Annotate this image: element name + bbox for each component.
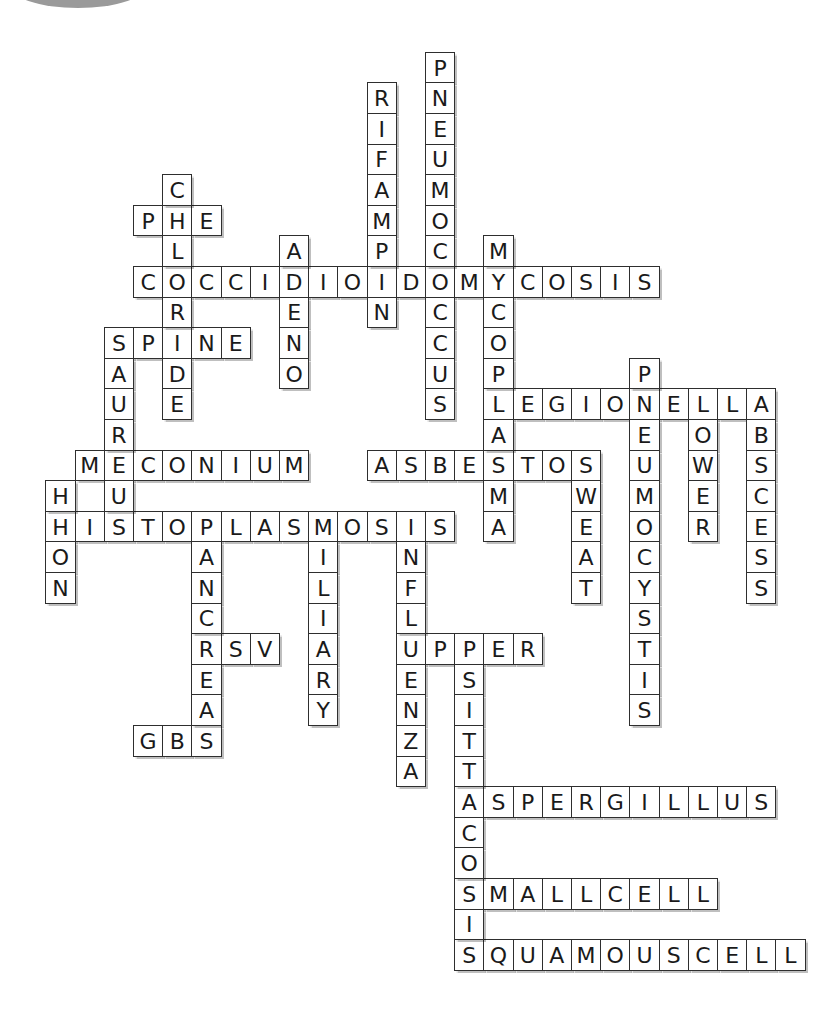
crossword-cell[interactable]: A: [191, 541, 221, 573]
crossword-cell[interactable]: Y: [629, 572, 659, 604]
crossword-cell[interactable]: O: [542, 450, 572, 482]
crossword-cell[interactable]: L: [746, 939, 776, 971]
crossword-cell[interactable]: R: [308, 664, 338, 696]
crossword-cell[interactable]: S: [571, 266, 601, 298]
crossword-cell[interactable]: O: [629, 511, 659, 543]
crossword-cell[interactable]: O: [600, 939, 630, 971]
crossword-cell[interactable]: I: [629, 664, 659, 696]
crossword-cell[interactable]: N: [425, 82, 455, 114]
crossword-cell[interactable]: I: [221, 450, 251, 482]
crossword-cell[interactable]: M: [279, 450, 309, 482]
crossword-cell[interactable]: P: [629, 358, 659, 390]
crossword-cell[interactable]: A: [571, 541, 601, 573]
crossword-cell[interactable]: E: [279, 297, 309, 329]
crossword-cell[interactable]: D: [162, 358, 192, 390]
crossword-cell[interactable]: U: [717, 786, 747, 818]
crossword-cell[interactable]: C: [746, 480, 776, 512]
crossword-cell[interactable]: E: [162, 388, 192, 420]
crossword-cell[interactable]: U: [396, 633, 426, 665]
crossword-cell[interactable]: L: [775, 939, 805, 971]
crossword-cell[interactable]: S: [104, 327, 134, 359]
crossword-cell[interactable]: C: [688, 939, 718, 971]
crossword-cell[interactable]: T: [133, 511, 163, 543]
crossword-cell[interactable]: P: [483, 358, 513, 390]
crossword-cell[interactable]: T: [454, 756, 484, 788]
crossword-cell[interactable]: L: [571, 878, 601, 910]
crossword-cell[interactable]: E: [659, 388, 689, 420]
crossword-cell[interactable]: P: [513, 786, 543, 818]
crossword-cell[interactable]: S: [629, 266, 659, 298]
crossword-cell[interactable]: S: [454, 939, 484, 971]
crossword-cell[interactable]: I: [162, 327, 192, 359]
crossword-cell[interactable]: S: [571, 450, 601, 482]
crossword-cell[interactable]: L: [221, 511, 251, 543]
crossword-cell[interactable]: C: [133, 266, 163, 298]
crossword-cell[interactable]: P: [367, 235, 397, 267]
crossword-cell[interactable]: H: [162, 205, 192, 237]
crossword-cell[interactable]: Y: [483, 266, 513, 298]
crossword-cell[interactable]: U: [629, 939, 659, 971]
crossword-cell[interactable]: I: [367, 266, 397, 298]
crossword-cell[interactable]: E: [425, 113, 455, 145]
crossword-cell[interactable]: L: [542, 878, 572, 910]
crossword-cell[interactable]: W: [688, 450, 718, 482]
crossword-cell[interactable]: M: [308, 511, 338, 543]
crossword-cell[interactable]: L: [688, 878, 718, 910]
crossword-cell[interactable]: S: [425, 388, 455, 420]
crossword-cell[interactable]: T: [629, 633, 659, 665]
crossword-cell[interactable]: E: [629, 878, 659, 910]
crossword-cell[interactable]: I: [454, 909, 484, 941]
crossword-cell[interactable]: M: [629, 480, 659, 512]
crossword-cell[interactable]: A: [367, 174, 397, 206]
crossword-cell[interactable]: I: [629, 786, 659, 818]
crossword-cell[interactable]: V: [250, 633, 280, 665]
crossword-cell[interactable]: N: [367, 297, 397, 329]
crossword-cell[interactable]: O: [425, 205, 455, 237]
crossword-cell[interactable]: C: [483, 297, 513, 329]
crossword-cell[interactable]: E: [629, 419, 659, 451]
crossword-cell[interactable]: I: [308, 541, 338, 573]
crossword-cell[interactable]: P: [425, 52, 455, 84]
crossword-cell[interactable]: H: [45, 511, 75, 543]
crossword-cell[interactable]: O: [600, 388, 630, 420]
crossword-cell[interactable]: A: [396, 756, 426, 788]
crossword-cell[interactable]: A: [250, 511, 280, 543]
crossword-cell[interactable]: I: [308, 603, 338, 635]
crossword-cell[interactable]: C: [162, 174, 192, 206]
crossword-cell[interactable]: R: [513, 633, 543, 665]
crossword-cell[interactable]: L: [717, 388, 747, 420]
crossword-cell[interactable]: S: [746, 572, 776, 604]
crossword-cell[interactable]: U: [104, 388, 134, 420]
crossword-cell[interactable]: N: [279, 327, 309, 359]
crossword-cell[interactable]: L: [483, 388, 513, 420]
crossword-cell[interactable]: Q: [483, 939, 513, 971]
crossword-cell[interactable]: U: [425, 358, 455, 390]
crossword-cell[interactable]: R: [191, 633, 221, 665]
crossword-cell[interactable]: O: [162, 450, 192, 482]
crossword-cell[interactable]: A: [104, 358, 134, 390]
crossword-cell[interactable]: B: [425, 450, 455, 482]
crossword-cell[interactable]: M: [571, 939, 601, 971]
crossword-cell[interactable]: S: [191, 725, 221, 757]
crossword-cell[interactable]: S: [425, 511, 455, 543]
crossword-cell[interactable]: I: [600, 266, 630, 298]
crossword-cell[interactable]: O: [425, 266, 455, 298]
crossword-cell[interactable]: A: [367, 450, 397, 482]
crossword-cell[interactable]: S: [483, 450, 513, 482]
crossword-cell[interactable]: P: [191, 511, 221, 543]
crossword-cell[interactable]: E: [396, 664, 426, 696]
crossword-cell[interactable]: E: [221, 327, 251, 359]
crossword-cell[interactable]: I: [75, 511, 105, 543]
crossword-cell[interactable]: A: [308, 633, 338, 665]
crossword-cell[interactable]: S: [367, 511, 397, 543]
crossword-cell[interactable]: N: [396, 541, 426, 573]
crossword-cell[interactable]: S: [396, 450, 426, 482]
crossword-cell[interactable]: P: [133, 205, 163, 237]
crossword-cell[interactable]: C: [425, 235, 455, 267]
crossword-cell[interactable]: N: [191, 327, 221, 359]
crossword-cell[interactable]: E: [454, 450, 484, 482]
crossword-cell[interactable]: A: [542, 939, 572, 971]
crossword-cell[interactable]: A: [279, 235, 309, 267]
crossword-cell[interactable]: D: [396, 266, 426, 298]
crossword-cell[interactable]: I: [571, 388, 601, 420]
